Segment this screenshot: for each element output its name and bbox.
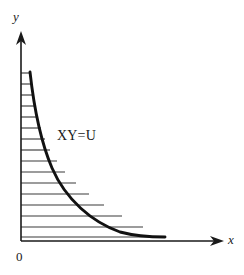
x-axis-label: x [228, 232, 234, 248]
y-axis-label: y [13, 9, 19, 25]
hyperbola-curve [30, 72, 165, 237]
hatched-region [21, 73, 165, 237]
y-axis [16, 31, 26, 241]
origin-label: 0 [16, 249, 23, 265]
curve-equation-label: XY=U [57, 128, 96, 144]
figure-canvas: y x 0 XY=U [0, 0, 244, 275]
diagram-svg [0, 0, 244, 275]
